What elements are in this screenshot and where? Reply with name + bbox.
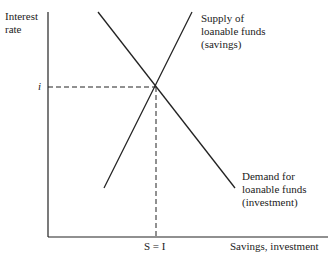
y-axis-label-line2: rate [5, 23, 38, 36]
demand-label-line1: Demand for [242, 170, 306, 183]
y-axis-label: Interest rate [5, 10, 38, 36]
supply-label: Supply of loanable funds (savings) [201, 12, 265, 51]
x-axis-label: Savings, investment [230, 240, 319, 253]
supply-label-line2: loanable funds [201, 25, 265, 38]
supply-label-line3: (savings) [201, 38, 265, 51]
demand-label-line2: loanable funds [242, 183, 306, 196]
y-axis-label-line1: Interest [5, 10, 38, 23]
loanable-funds-diagram [0, 0, 333, 258]
supply-curve [104, 12, 192, 188]
demand-label: Demand for loanable funds (investment) [242, 170, 306, 209]
equilibrium-rate-label: i [38, 80, 41, 93]
equilibrium-quantity-label: S = I [144, 240, 165, 253]
demand-label-line3: (investment) [242, 196, 306, 209]
supply-label-line1: Supply of [201, 12, 265, 25]
